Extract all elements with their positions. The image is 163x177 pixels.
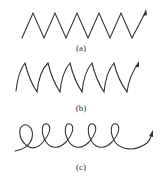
panel-b: (b) — [16, 61, 139, 113]
panel-label-b: (b) — [76, 103, 87, 113]
arrow-head-icon — [149, 130, 153, 137]
sawtooth-wave — [16, 63, 138, 92]
panel-label-c: (c) — [76, 162, 86, 172]
arrow-head-icon — [143, 9, 147, 16]
panel-label-a: (a) — [76, 43, 86, 53]
figure-canvas: (a) (b) (c) — [0, 0, 163, 177]
panel-c: (c) — [15, 124, 153, 172]
arrow-head-icon — [135, 61, 139, 67]
panel-a: (a) — [22, 9, 147, 53]
helix-coil — [15, 124, 152, 151]
triangle-wave — [22, 13, 145, 38]
